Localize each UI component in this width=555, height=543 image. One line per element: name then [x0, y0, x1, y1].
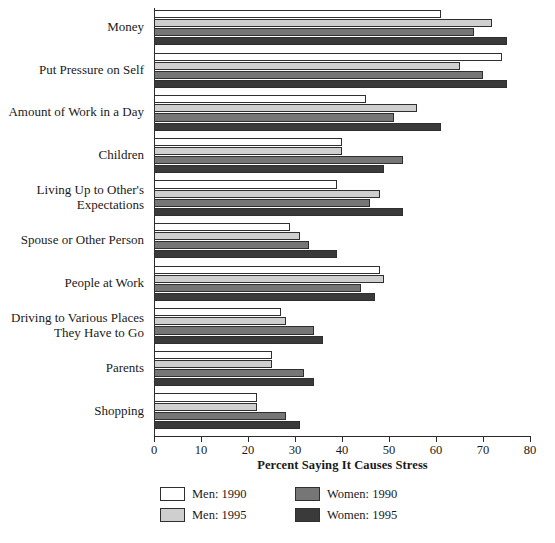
- legend-label: Women: 1990: [327, 487, 397, 501]
- bar: [154, 123, 441, 131]
- category-label: Living Up to Other's Expectations: [0, 182, 144, 212]
- bar: [154, 412, 286, 420]
- x-tick-20: [248, 436, 249, 442]
- category-label: Money: [0, 19, 144, 34]
- x-axis-title: Percent Saying It Causes Stress: [154, 458, 531, 473]
- x-tick-70: [483, 436, 484, 442]
- category-label: Driving to Various Places They Have to G…: [0, 310, 144, 340]
- bar: [154, 95, 366, 103]
- bar: [154, 241, 309, 249]
- category-label: Parents: [0, 360, 144, 375]
- x-tick-0: [154, 436, 155, 442]
- bar: [154, 113, 394, 121]
- bar: [154, 393, 257, 401]
- bar: [154, 147, 342, 155]
- legend-swatch-icon: [160, 508, 185, 522]
- x-tick-label-30: 30: [275, 443, 315, 457]
- bar: [154, 378, 314, 386]
- bar: [154, 351, 272, 359]
- legend-label: Men: 1995: [192, 508, 247, 522]
- x-tick-label-70: 70: [463, 443, 503, 457]
- bar: [154, 190, 380, 198]
- legend-swatch-icon: [295, 508, 320, 522]
- category-label: People at Work: [0, 275, 144, 290]
- bar: [154, 308, 281, 316]
- bar: [154, 80, 507, 88]
- bar: [154, 138, 342, 146]
- category-label: Amount of Work in a Day: [0, 104, 144, 119]
- bar: [154, 62, 460, 70]
- legend: Men: 1990Women: 1990Men: 1995Women: 1995: [160, 483, 490, 525]
- x-tick-label-40: 40: [322, 443, 362, 457]
- x-tick-label-80: 80: [510, 443, 550, 457]
- x-tick-60: [436, 436, 437, 442]
- bar: [154, 199, 370, 207]
- x-tick-label-60: 60: [416, 443, 456, 457]
- x-tick-label-10: 10: [181, 443, 221, 457]
- bar: [154, 275, 384, 283]
- bar: [154, 250, 337, 258]
- legend-item[interactable]: Men: 1995: [160, 508, 295, 522]
- legend-label: Men: 1990: [192, 487, 247, 501]
- bar: [154, 37, 507, 45]
- bar: [154, 180, 337, 188]
- x-tick-30: [295, 436, 296, 442]
- bar: [154, 293, 375, 301]
- x-tick-80: [530, 436, 531, 442]
- x-tick-label-50: 50: [369, 443, 409, 457]
- bar: [154, 266, 380, 274]
- bar: [154, 19, 492, 27]
- category-label: Spouse or Other Person: [0, 232, 144, 247]
- bar: [154, 317, 286, 325]
- category-label: Children: [0, 147, 144, 162]
- bar: [154, 53, 502, 61]
- bar: [154, 421, 300, 429]
- x-tick-10: [201, 436, 202, 442]
- bar: [154, 165, 384, 173]
- bar: [154, 104, 417, 112]
- legend-swatch-icon: [295, 487, 320, 501]
- legend-item[interactable]: Women: 1990: [295, 487, 465, 501]
- bar: [154, 156, 403, 164]
- bar: [154, 208, 403, 216]
- legend-item[interactable]: Men: 1990: [160, 487, 295, 501]
- bar: [154, 360, 272, 368]
- x-tick-label-20: 20: [228, 443, 268, 457]
- x-tick-40: [342, 436, 343, 442]
- x-tick-label-0: 0: [134, 443, 174, 457]
- bar: [154, 326, 314, 334]
- stress-causes-bar-chart: 01020304050607080 MoneyPut Pressure on S…: [0, 0, 555, 543]
- x-tick-50: [389, 436, 390, 442]
- legend-label: Women: 1995: [327, 508, 397, 522]
- bar: [154, 336, 323, 344]
- bar: [154, 369, 304, 377]
- bar: [154, 403, 257, 411]
- bar: [154, 284, 361, 292]
- bar: [154, 28, 474, 36]
- bar: [154, 232, 300, 240]
- bar: [154, 223, 290, 231]
- bar: [154, 71, 483, 79]
- category-label: Shopping: [0, 403, 144, 418]
- legend-item[interactable]: Women: 1995: [295, 508, 465, 522]
- bar: [154, 10, 441, 18]
- legend-swatch-icon: [160, 487, 185, 501]
- category-label: Put Pressure on Self: [0, 62, 144, 77]
